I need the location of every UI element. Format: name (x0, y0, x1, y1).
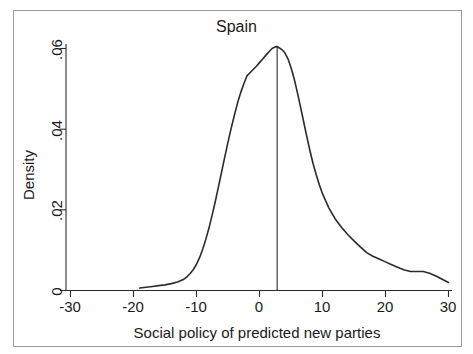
density-curve-line (140, 46, 449, 288)
axes-group (60, 44, 452, 297)
x-axis-ticks (71, 291, 449, 298)
y-tick-label-04: .04 (48, 111, 65, 151)
figure-container: Spain Density Social policy of predicted… (0, 0, 473, 354)
x-tick-label--20: -20 (122, 298, 144, 315)
x-tick-label-10: 10 (314, 298, 331, 315)
y-tick-label-06: .06 (48, 30, 65, 70)
x-tick-label-0: 0 (255, 298, 263, 315)
x-tick-label-30: 30 (440, 298, 457, 315)
y-tick-label-02: .02 (48, 191, 65, 231)
x-tick-label-20: 20 (377, 298, 394, 315)
x-tick-label--10: -10 (185, 298, 207, 315)
y-axis-ticks (60, 49, 66, 291)
y-tick-label-0: 0 (48, 272, 65, 312)
